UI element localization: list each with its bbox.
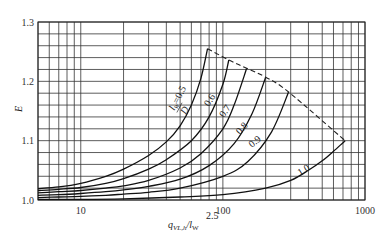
x-tick-label: 1000 — [355, 205, 375, 216]
svg-text:qVL,h/lW: qVL,h/lW — [168, 219, 199, 232]
y-tick-label: 1.3 — [22, 17, 35, 28]
x-axis-label: qVL,h/lW 2.5 — [168, 210, 219, 232]
grid — [38, 22, 365, 200]
x-tick-label: 10 — [76, 205, 86, 216]
axes — [38, 22, 365, 200]
chart: 1.01.11.21.3101001000 E qVL,h/lW 2.5 lW=… — [0, 0, 385, 243]
svg-text:D: D — [177, 104, 191, 117]
x-label-sub: VL,h — [173, 224, 187, 232]
y-axis-label: E — [13, 106, 24, 113]
curve-0.7 — [38, 68, 247, 193]
x-label-sup: 2.5 — [206, 210, 219, 221]
y-tick-label: 1.1 — [22, 135, 35, 146]
curve-0.8 — [38, 77, 266, 195]
x-label-sub2: W — [192, 224, 199, 232]
y-tick-label: 1.0 — [22, 195, 35, 206]
y-tick-label: 1.2 — [22, 76, 35, 87]
